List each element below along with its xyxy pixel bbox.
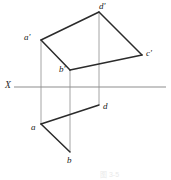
- front-view-outline: [41, 12, 142, 70]
- vertex-label-b-prime: b': [59, 65, 65, 74]
- vertex-label-c-prime: c': [146, 49, 152, 58]
- edge-aprime-dprime: [41, 12, 99, 40]
- geometry-drawing: [0, 0, 171, 180]
- vertex-label-b: b: [67, 156, 72, 165]
- vertex-label-a: a: [31, 123, 36, 132]
- x-axis-label: X: [5, 81, 11, 91]
- vertex-label-d: d: [103, 102, 108, 111]
- edge-a-b: [41, 124, 70, 152]
- edge-cprime-bprime: [70, 55, 142, 70]
- vertex-label-d-prime: d': [99, 2, 105, 11]
- edge-dprime-cprime: [99, 12, 142, 55]
- figure-container: X a' d' c' b' a d b 图 3-5: [0, 0, 171, 180]
- vertex-label-a-prime: a': [24, 33, 30, 42]
- projection-lines: [41, 12, 99, 152]
- figure-caption: 图 3-5: [100, 171, 119, 178]
- edge-bprime-aprime: [41, 40, 70, 70]
